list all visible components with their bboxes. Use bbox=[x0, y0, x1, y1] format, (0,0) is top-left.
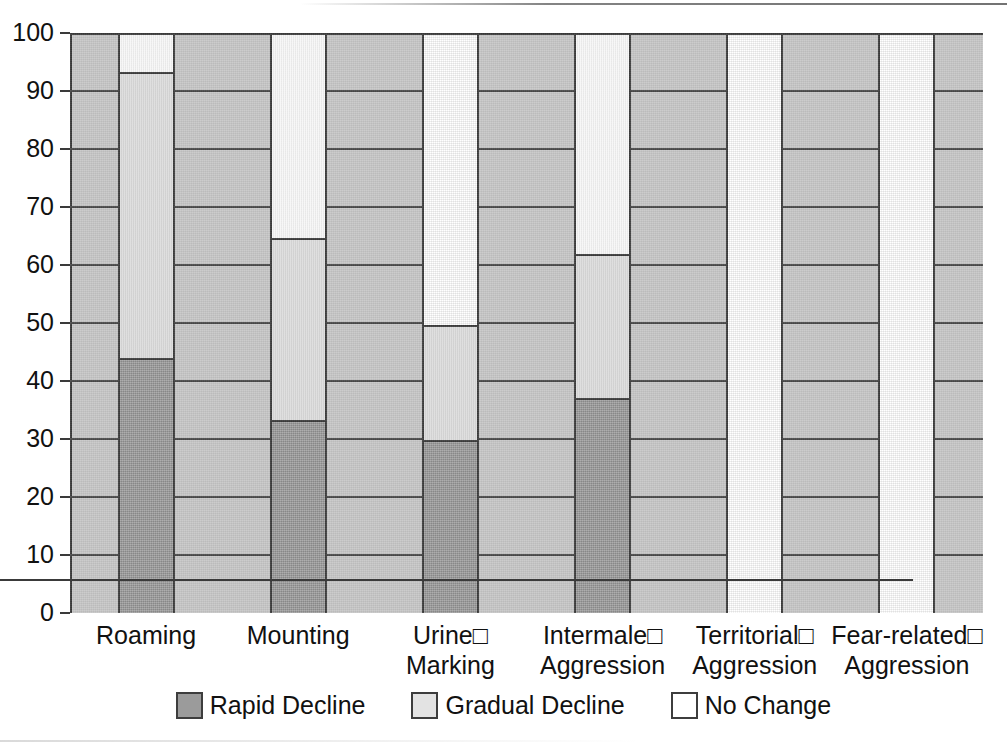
legend-label: Gradual Decline bbox=[445, 692, 624, 719]
x-axis-line bbox=[0, 579, 913, 581]
legend-swatch-none bbox=[671, 692, 698, 719]
legend-item[interactable]: Rapid Decline bbox=[176, 692, 366, 719]
bar-segment-rapid[interactable] bbox=[118, 358, 175, 613]
bar-territorial-aggression[interactable] bbox=[726, 33, 783, 613]
y-axis-tick-label: 50 bbox=[0, 310, 54, 335]
y-axis-tick bbox=[60, 206, 70, 208]
gridline bbox=[70, 554, 983, 556]
y-axis-tick-label: 60 bbox=[0, 252, 54, 277]
bar-fear-related-aggression[interactable] bbox=[878, 33, 935, 613]
y-axis-tick-label: 20 bbox=[0, 484, 54, 509]
y-axis-tick-label: 0 bbox=[0, 600, 54, 625]
x-axis-label: Fear-related□ Aggression bbox=[831, 620, 983, 680]
legend-swatch-rapid bbox=[176, 692, 203, 719]
y-axis-tick bbox=[60, 148, 70, 150]
y-axis-tick-label: 30 bbox=[0, 426, 54, 451]
bar-segment-none[interactable] bbox=[422, 33, 479, 325]
gridline bbox=[70, 438, 983, 440]
y-axis-tick-label: 100 bbox=[0, 20, 54, 45]
bar-segment-gradual[interactable] bbox=[574, 254, 631, 398]
plot-area bbox=[70, 33, 983, 613]
bar-segment-none[interactable] bbox=[270, 33, 327, 238]
y-axis-tick-label: 10 bbox=[0, 542, 54, 567]
gridline bbox=[70, 322, 983, 324]
y-axis-tick-label: 70 bbox=[0, 194, 54, 219]
x-axis-label: Roaming bbox=[70, 620, 222, 650]
y-axis-tick-label: 80 bbox=[0, 136, 54, 161]
bar-segment-none[interactable] bbox=[726, 33, 783, 613]
bar-segment-rapid[interactable] bbox=[270, 420, 327, 613]
x-axis-label: Intermale□ Aggression bbox=[527, 620, 679, 680]
legend-item[interactable]: No Change bbox=[671, 692, 831, 719]
y-axis-tick-label: 90 bbox=[0, 78, 54, 103]
bar-segment-gradual[interactable] bbox=[422, 325, 479, 440]
bar-segment-none[interactable] bbox=[118, 33, 175, 72]
bar-intermale-aggression[interactable] bbox=[574, 33, 631, 613]
y-axis-tick bbox=[60, 554, 70, 556]
gridline bbox=[70, 206, 983, 208]
legend-swatch-gradual bbox=[411, 692, 438, 719]
plot-top-border bbox=[70, 33, 983, 35]
x-axis-label: Mounting bbox=[222, 620, 374, 650]
x-axis-label: Territorial□ Aggression bbox=[679, 620, 831, 680]
bar-urine-marking[interactable] bbox=[422, 33, 479, 613]
gridline bbox=[70, 380, 983, 382]
legend-label: No Change bbox=[705, 692, 831, 719]
gridline bbox=[70, 264, 983, 266]
bar-segment-gradual[interactable] bbox=[118, 72, 175, 358]
y-axis-tick bbox=[60, 612, 70, 614]
scan-artifact-line-bottom bbox=[0, 740, 640, 742]
y-axis-tick bbox=[60, 438, 70, 440]
y-axis-tick-label: 40 bbox=[0, 368, 54, 393]
bar-mounting[interactable] bbox=[270, 33, 327, 613]
y-axis-tick bbox=[60, 496, 70, 498]
chart-legend: Rapid DeclineGradual DeclineNo Change bbox=[0, 692, 1007, 719]
x-axis-label: Urine□ Marking bbox=[374, 620, 526, 680]
y-axis-tick bbox=[60, 380, 70, 382]
y-axis-tick bbox=[60, 264, 70, 266]
y-axis-tick bbox=[60, 90, 70, 92]
bar-segment-rapid[interactable] bbox=[422, 440, 479, 613]
scan-artifact-line-top bbox=[300, 3, 1007, 5]
bar-segment-none[interactable] bbox=[574, 33, 631, 254]
bar-segment-none[interactable] bbox=[878, 33, 935, 613]
bar-segment-gradual[interactable] bbox=[270, 238, 327, 420]
gridline bbox=[70, 90, 983, 92]
stacked-bar-chart-figure: 0102030405060708090100 RoamingMountingUr… bbox=[0, 0, 1007, 747]
gridline bbox=[70, 496, 983, 498]
legend-item[interactable]: Gradual Decline bbox=[411, 692, 624, 719]
bar-roaming[interactable] bbox=[118, 33, 175, 613]
y-axis-tick bbox=[60, 322, 70, 324]
gridline bbox=[70, 148, 983, 150]
y-axis-tick bbox=[60, 32, 70, 34]
legend-label: Rapid Decline bbox=[210, 692, 366, 719]
